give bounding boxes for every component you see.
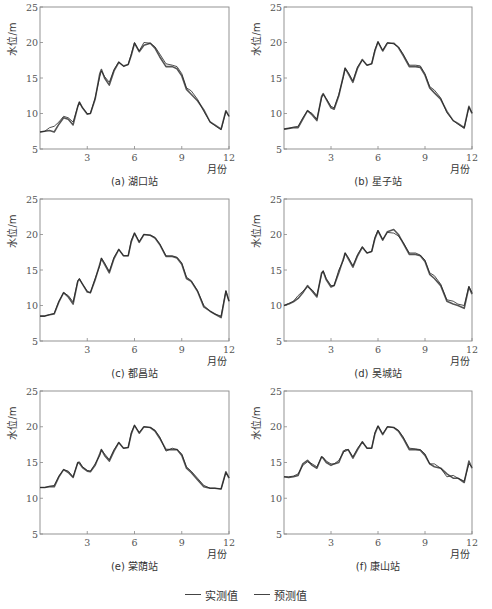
y-axis-label: 水位/m <box>6 22 18 55</box>
x-tick-label: 9 <box>179 152 185 163</box>
y-axis-label: 水位/m <box>6 406 18 439</box>
x-tick-label: 9 <box>179 344 185 355</box>
x-tick-label: 6 <box>375 537 381 548</box>
legend-item-observed: 实测值 <box>185 587 238 603</box>
x-tick-label: 9 <box>179 537 185 548</box>
y-tick-label: 15 <box>26 73 38 84</box>
x-tick-label: 9 <box>422 152 428 163</box>
plot-frame <box>284 7 472 149</box>
x-tick-label: 6 <box>375 152 381 163</box>
plot-frame <box>40 391 229 534</box>
legend-line-icon <box>185 594 201 595</box>
y-tick-label: 5 <box>32 336 38 347</box>
observed-series-line <box>284 42 472 129</box>
predicted-series-line <box>40 233 229 316</box>
y-tick-label: 15 <box>26 265 38 276</box>
y-axis-label: 水位/m <box>250 22 262 55</box>
plot-frame <box>284 199 472 341</box>
y-tick-label: 5 <box>276 144 282 155</box>
plot-frame <box>40 199 229 341</box>
y-tick-label: 5 <box>32 144 38 155</box>
x-tick-label: 6 <box>131 152 137 163</box>
x-tick-label: 12 <box>466 344 478 355</box>
predicted-series-line <box>40 425 229 489</box>
x-axis-label: 月份 <box>207 549 227 560</box>
y-tick-label: 10 <box>270 300 282 311</box>
y-tick-label: 15 <box>270 265 282 276</box>
station-chart-2: 51015202536912水位/m月份(b) 星子站 <box>250 2 478 188</box>
y-tick-label: 20 <box>26 37 38 48</box>
plot-frame <box>40 7 229 149</box>
station-chart-5: 51015202536912水位/m月份(e) 棠荫站 <box>6 386 235 573</box>
y-tick-label: 25 <box>26 386 38 397</box>
chart-grid: 51015202536912水位/m月份(a) 湖口站5101520253691… <box>0 0 492 585</box>
chart-caption: (b) 星子站 <box>354 175 401 187</box>
y-tick-label: 5 <box>276 336 282 347</box>
x-axis-label: 月份 <box>207 164 227 175</box>
x-tick-label: 6 <box>131 537 137 548</box>
station-chart-4: 51015202536912水位/m月份(d) 吴城站 <box>250 194 478 380</box>
y-tick-label: 10 <box>26 493 38 504</box>
y-tick-label: 10 <box>270 108 282 119</box>
x-tick-label: 3 <box>328 344 334 355</box>
legend-label-predicted: 预测值 <box>274 587 307 603</box>
y-tick-label: 20 <box>270 37 282 48</box>
x-tick-label: 12 <box>466 152 478 163</box>
observed-series-line <box>284 230 472 309</box>
chart-caption: (a) 湖口站 <box>111 175 158 187</box>
y-tick-label: 10 <box>270 493 282 504</box>
y-tick-label: 10 <box>26 300 38 311</box>
observed-series-line <box>40 43 229 132</box>
x-tick-label: 12 <box>466 537 478 548</box>
x-tick-label: 6 <box>131 344 137 355</box>
observed-series-line <box>40 425 229 489</box>
x-tick-label: 12 <box>223 537 235 548</box>
y-axis-label: 水位/m <box>250 406 262 439</box>
x-tick-label: 3 <box>84 344 90 355</box>
figure: 51015202536912水位/m月份(a) 湖口站5101520253691… <box>0 0 492 609</box>
chart-caption: (f) 康山站 <box>356 560 401 572</box>
y-tick-label: 25 <box>270 386 282 397</box>
x-tick-label: 6 <box>375 344 381 355</box>
y-tick-label: 5 <box>276 529 282 540</box>
x-tick-label: 3 <box>328 152 334 163</box>
legend-label-observed: 实测值 <box>205 587 238 603</box>
x-axis-label: 月份 <box>207 356 227 367</box>
predicted-series-line <box>284 426 472 481</box>
legend: 实测值 预测值 <box>0 585 492 603</box>
x-tick-label: 12 <box>223 152 235 163</box>
observed-series-line <box>40 233 229 318</box>
y-tick-label: 15 <box>270 73 282 84</box>
station-chart-3: 51015202536912水位/m月份(c) 都昌站 <box>6 194 235 380</box>
x-tick-label: 9 <box>422 537 428 548</box>
y-tick-label: 20 <box>26 421 38 432</box>
x-tick-label: 9 <box>422 344 428 355</box>
y-tick-label: 20 <box>270 421 282 432</box>
legend-line-icon <box>254 594 270 595</box>
y-tick-label: 5 <box>32 529 38 540</box>
station-chart-6: 51015202536912水位/m月份(f) 康山站 <box>250 386 478 573</box>
y-tick-label: 25 <box>270 194 282 205</box>
x-axis-label: 月份 <box>450 356 470 367</box>
x-tick-label: 12 <box>223 344 235 355</box>
y-tick-label: 20 <box>270 229 282 240</box>
plot-frame <box>284 391 472 534</box>
y-axis-label: 水位/m <box>6 214 18 247</box>
chart-caption: (d) 吴城站 <box>354 367 401 379</box>
y-tick-label: 10 <box>26 108 38 119</box>
y-tick-label: 15 <box>26 457 38 468</box>
x-axis-label: 月份 <box>450 164 470 175</box>
chart-caption: (c) 都昌站 <box>111 367 157 379</box>
legend-item-predicted: 预测值 <box>254 587 307 603</box>
y-tick-label: 20 <box>26 229 38 240</box>
y-axis-label: 水位/m <box>250 214 262 247</box>
y-tick-label: 25 <box>26 194 38 205</box>
x-tick-label: 3 <box>84 537 90 548</box>
station-chart-1: 51015202536912水位/m月份(a) 湖口站 <box>6 2 235 188</box>
x-axis-label: 月份 <box>450 549 470 560</box>
y-tick-label: 25 <box>26 2 38 13</box>
y-tick-label: 25 <box>270 2 282 13</box>
y-tick-label: 15 <box>270 457 282 468</box>
observed-series-line <box>284 426 472 483</box>
chart-caption: (e) 棠荫站 <box>111 560 158 572</box>
